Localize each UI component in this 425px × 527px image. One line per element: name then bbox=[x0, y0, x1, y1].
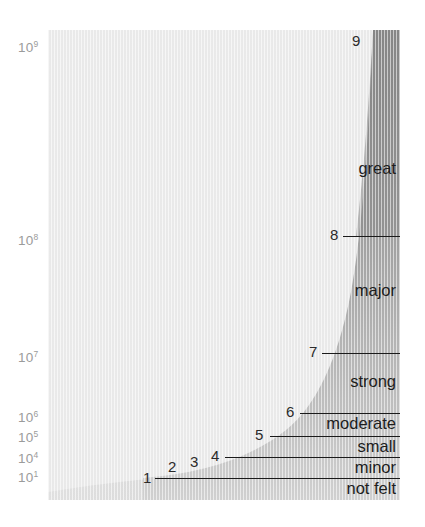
y-tick-10e4-exponent: 4 bbox=[33, 450, 38, 460]
magnitude-label-7: 7 bbox=[309, 344, 317, 359]
earthquake-magnitude-energy-figure: 109 108 107 106 105 104 101 bbox=[0, 0, 425, 527]
category-label-moderate: moderate bbox=[224, 415, 396, 432]
curve-great-zone bbox=[356, 30, 400, 236]
y-tick-10e8-exponent: 8 bbox=[33, 232, 38, 242]
magnitude-label-4: 4 bbox=[211, 448, 219, 463]
y-tick-10e5: 105 bbox=[18, 431, 38, 445]
category-label-small: small bbox=[240, 438, 396, 455]
magnitude-label-3: 3 bbox=[190, 454, 198, 469]
category-label-great: great bbox=[240, 160, 396, 177]
y-tick-10e8: 108 bbox=[18, 234, 38, 248]
y-tick-10e6-exponent: 6 bbox=[33, 409, 38, 419]
y-tick-10e7: 107 bbox=[18, 351, 38, 365]
category-label-not-felt: not felt bbox=[232, 480, 396, 497]
y-tick-10e5-exponent: 5 bbox=[33, 429, 38, 439]
y-tick-10e1-exponent: 1 bbox=[33, 469, 38, 479]
y-tick-10e4: 104 bbox=[18, 452, 38, 466]
category-label-strong: strong bbox=[240, 373, 396, 390]
magnitude-label-2: 2 bbox=[168, 459, 176, 474]
y-tick-10e9: 109 bbox=[18, 41, 38, 55]
rule-magnitude-7 bbox=[322, 353, 400, 354]
magnitude-label-1: 1 bbox=[143, 470, 151, 485]
y-tick-10e7-exponent: 7 bbox=[33, 349, 38, 359]
y-tick-10e6: 106 bbox=[18, 411, 38, 425]
y-tick-10e9-exponent: 9 bbox=[33, 39, 38, 49]
category-label-minor: minor bbox=[240, 459, 396, 476]
magnitude-label-8: 8 bbox=[330, 227, 338, 242]
category-label-major: major bbox=[240, 282, 396, 299]
magnitude-label-9: 9 bbox=[352, 33, 360, 48]
y-tick-10e1: 101 bbox=[18, 471, 38, 485]
rule-magnitude-8 bbox=[343, 236, 400, 237]
